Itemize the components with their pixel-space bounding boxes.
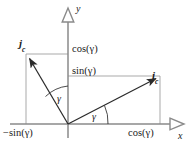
x-axis-label: x — [178, 131, 182, 141]
vector-rotation-diagram: jc ic cos(γ) sin(γ) −sin(γ) cos(γ) γ γ y… — [0, 0, 191, 150]
angle-arc-lower-gamma — [105, 106, 109, 125]
neg-sin-gamma-x-label: −sin(γ) — [3, 128, 33, 139]
j-c-vector-arrow — [30, 59, 69, 125]
i-c-vector-arrow — [68, 79, 156, 125]
y-axis-label: y — [76, 4, 80, 14]
cos-gamma-x-label: cos(γ) — [128, 128, 154, 139]
cos-gamma-y-label: cos(γ) — [72, 44, 98, 55]
y-axis-arrowhead — [62, 8, 74, 22]
x-axis-arrowhead — [170, 118, 184, 130]
angle-lower-gamma-label: γ — [92, 112, 96, 122]
coordinate-axes — [10, 22, 170, 138]
sin-gamma-y-label: sin(γ) — [72, 66, 96, 77]
angle-arcs — [46, 86, 109, 124]
i-c-vector-label: ic — [152, 70, 158, 84]
angle-upper-gamma-label: γ — [57, 94, 61, 104]
j-c-vector-label: jc — [19, 38, 25, 52]
